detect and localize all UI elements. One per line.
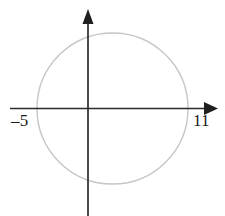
coordinate-plane-svg [0, 0, 225, 216]
x-intercept-left-label: –5 [11, 112, 28, 129]
circle-graph-figure: –5 11 [0, 0, 225, 216]
x-intercept-right-label: 11 [193, 112, 210, 129]
arrow-up-icon [83, 9, 94, 24]
